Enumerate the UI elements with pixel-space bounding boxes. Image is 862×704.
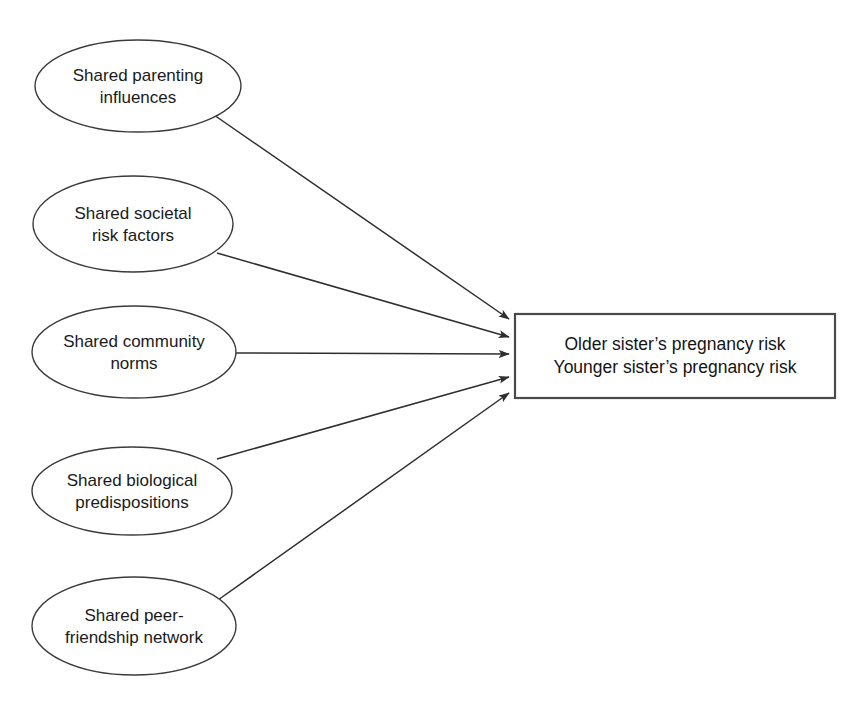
arrow-biological-to-outcome — [217, 377, 509, 459]
ellipse-shape — [33, 176, 233, 272]
node-shared-biological-predispositions[interactable]: Shared biological predispositions — [32, 447, 232, 535]
node-label: risk factors — [92, 226, 174, 245]
ellipse-shape — [35, 40, 241, 132]
diagram-canvas: Shared parenting influences Shared socie… — [0, 0, 862, 704]
node-label: Shared community — [63, 332, 205, 351]
node-shared-community-norms[interactable]: Shared community norms — [32, 306, 236, 398]
arrow-parenting-to-outcome — [214, 115, 509, 319]
node-label: predispositions — [75, 493, 188, 512]
node-label: friendship network — [65, 628, 203, 647]
outcome-label-older: Older sister’s pregnancy risk — [564, 334, 785, 354]
node-shared-peer-friendship-network[interactable]: Shared peer- friendship network — [32, 577, 236, 675]
arrow-societal-to-outcome — [217, 253, 509, 337]
node-label: norms — [110, 354, 157, 373]
node-label: Shared biological — [67, 471, 197, 490]
node-label: Shared parenting — [73, 66, 203, 85]
node-label: influences — [100, 88, 177, 107]
influence-diagram: Shared parenting influences Shared socie… — [0, 0, 862, 704]
outcome-label-younger: Younger sister’s pregnancy risk — [554, 357, 797, 377]
ellipse-shape — [32, 306, 236, 398]
arrow-peer-network-to-outcome — [218, 393, 509, 600]
ellipse-shape — [32, 577, 236, 675]
node-sisters-pregnancy-risk[interactable]: Older sister’s pregnancy risk Younger si… — [515, 314, 835, 398]
node-shared-parenting-influences[interactable]: Shared parenting influences — [35, 40, 241, 132]
arrow-group — [214, 115, 509, 600]
node-label: Shared peer- — [84, 606, 183, 625]
arrow-community-to-outcome — [236, 353, 509, 354]
node-label: Shared societal — [74, 204, 191, 223]
ellipse-shape — [32, 447, 232, 535]
node-shared-societal-risk-factors[interactable]: Shared societal risk factors — [33, 176, 233, 272]
